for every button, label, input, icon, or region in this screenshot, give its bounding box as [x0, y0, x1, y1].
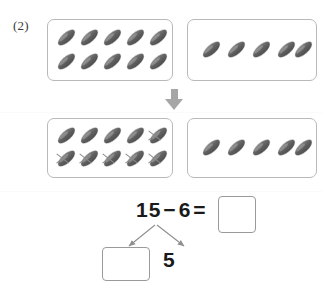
decomposition-arrow-left: [129, 225, 155, 246]
answer-box-result[interactable]: [218, 196, 256, 233]
seed-icon: [226, 137, 248, 158]
seed-icon: [201, 39, 223, 60]
seed-icon: [102, 27, 124, 48]
seed-icon: [251, 137, 273, 158]
seed-icon: [148, 125, 170, 146]
seed-icon: [56, 148, 78, 169]
seed-icon: [79, 27, 101, 48]
scan-artifact: [0, 191, 322, 192]
seed-icon: [226, 39, 248, 60]
group-box-top-right: [187, 19, 317, 81]
seed-icon: [79, 148, 101, 169]
seed-icon: [125, 27, 147, 48]
problem-number-label: (2): [13, 18, 29, 34]
seed-field-bottom-left: [48, 119, 172, 177]
seed-icon: [125, 148, 147, 169]
seed-icon: [251, 39, 273, 60]
arrow-down-icon: [165, 89, 183, 110]
seed-icon: [276, 137, 298, 158]
seed-icon: [56, 125, 78, 146]
seed-icon: [102, 148, 124, 169]
seed-icon: [293, 137, 315, 158]
seed-field-bottom-right: [188, 119, 316, 177]
seed-icon: [56, 51, 78, 72]
seed-icon: [148, 51, 170, 72]
seed-icon: [102, 125, 124, 146]
equation-operator: −: [161, 198, 178, 221]
decomposition-arrow-right: [157, 225, 184, 246]
seed-icon: [56, 27, 78, 48]
group-box-bottom-right: [187, 118, 317, 178]
group-box-top-left: [47, 19, 173, 81]
seed-icon: [125, 125, 147, 146]
decomposition-right-part-value: 5: [163, 249, 175, 270]
equation-equals-sign: =: [191, 198, 208, 221]
seed-field-top-right: [188, 20, 316, 80]
seed-icon: [79, 51, 101, 72]
arrow-head: [165, 99, 183, 110]
seed-field-top-left: [48, 20, 172, 80]
equation-expression: 15−6=: [136, 199, 209, 220]
seed-icon: [293, 39, 315, 60]
scan-artifact: [0, 112, 322, 113]
seed-icon: [201, 137, 223, 158]
seed-icon: [102, 51, 124, 72]
group-box-bottom-left: [47, 118, 173, 178]
seed-icon: [125, 51, 147, 72]
seed-icon: [148, 27, 170, 48]
equation-subtrahend: 6: [179, 198, 192, 221]
answer-box-left-part[interactable]: [102, 247, 150, 281]
seed-icon: [79, 125, 101, 146]
seed-icon: [276, 39, 298, 60]
equation-minuend: 15: [136, 198, 161, 221]
seed-icon: [148, 148, 170, 169]
